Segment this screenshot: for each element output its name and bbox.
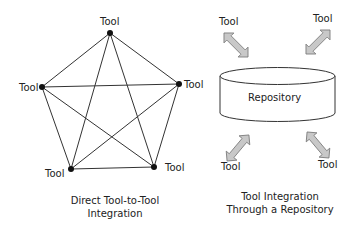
double-arrow-icon <box>302 127 335 162</box>
left-caption: Direct Tool-to-Tool Integration <box>60 194 170 220</box>
tool-node <box>151 164 157 170</box>
tool-node <box>68 166 74 172</box>
tool-node <box>176 81 182 87</box>
tool-label-top: Tool <box>100 17 119 27</box>
tool-label-bottom-left: Tool <box>45 169 64 179</box>
right-caption-line1: Tool Integration <box>215 190 345 203</box>
double-arrow-icon <box>301 25 335 59</box>
right-caption: Tool Integration Through a Repository <box>215 190 345 216</box>
repo-tool-label-top-right: Tool <box>313 14 332 24</box>
repo-tool-label-bottom-left: Tool <box>221 162 240 172</box>
left-caption-line2: Integration <box>60 207 170 220</box>
tool-label-bottom-right: Tool <box>165 163 184 173</box>
left-caption-line1: Direct Tool-to-Tool <box>60 194 170 207</box>
double-arrow-icon <box>219 28 253 62</box>
tool-label-left: Tool <box>19 83 38 93</box>
tool-label-right: Tool <box>184 80 203 90</box>
right-caption-line2: Through a Repository <box>215 203 345 216</box>
tool-node <box>107 30 113 36</box>
repo-tool-label-top-left: Tool <box>219 17 238 27</box>
repository-label: Repository <box>248 93 301 103</box>
tool-nodes <box>39 30 182 172</box>
tool-node <box>39 84 45 90</box>
repo-tool-label-bottom-right: Tool <box>318 160 337 170</box>
tool-mesh-edges <box>42 33 179 169</box>
